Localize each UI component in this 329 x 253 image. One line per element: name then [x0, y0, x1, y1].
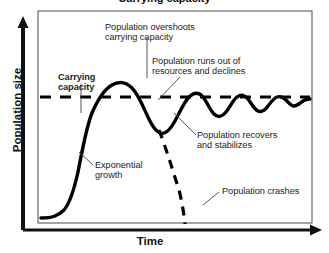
annotation-overshoot: Population overshoots carrying capacity	[105, 22, 195, 43]
y-axis-label: Population size	[11, 60, 23, 160]
annotation-recovery: Population recovers and stabilizes	[197, 130, 277, 151]
annotation-exponential: Exponential growth	[95, 160, 142, 181]
chart-title-clip: Carrying capacity	[0, 0, 329, 9]
x-axis-label: Time	[0, 235, 300, 247]
annotation-decline: Population runs out of resources and dec…	[152, 56, 245, 77]
chart-title: Carrying capacity	[0, 0, 329, 4]
population-growth-figure: Carrying capacity Population size Time P…	[0, 0, 329, 253]
annotation-crash: Population crashes	[222, 186, 299, 196]
annotation-carrying-capacity: Carrying capacity	[58, 72, 95, 93]
x-axis-arrow	[23, 225, 322, 236]
